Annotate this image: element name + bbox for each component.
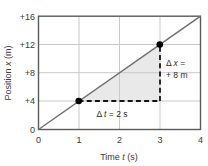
chart-svg: +16 +12 +8 +4 0 0 1 2 3 4 Time t (s) Pos… (0, 0, 208, 166)
y-tick-label: +4 (25, 96, 35, 106)
delta-x-annotation-line1: Δ x = (166, 58, 185, 68)
y-axis-title-post: (m) (3, 45, 13, 61)
delta-t-post: = 2 s (106, 109, 127, 119)
x-tick-label: 4 (198, 135, 203, 145)
x-tick-label: 3 (157, 135, 162, 145)
delta-t-annotation: Δ t = 2 s (97, 109, 128, 119)
position-time-graph: +16 +12 +8 +4 0 0 1 2 3 4 Time t (s) Pos… (0, 0, 208, 166)
x-axis-title: Time t (s) (100, 152, 138, 162)
y-axis-title-pre: Position (3, 66, 13, 101)
x-tick-label: 2 (117, 135, 122, 145)
y-tick-label: 0 (30, 125, 35, 135)
x-tick-label: 0 (36, 135, 41, 145)
delta-x-annotation-line2: + 8 m (166, 70, 188, 80)
y-tick-label: +8 (25, 68, 35, 78)
delta-x-pre: Δ (166, 58, 174, 68)
y-tick-label: +16 (20, 12, 35, 22)
delta-x-post: = (178, 58, 185, 68)
data-point-marker (157, 41, 164, 48)
y-axis-title: Position x (m) (3, 45, 13, 100)
data-point-marker (75, 98, 82, 105)
x-tick-label: 1 (76, 135, 81, 145)
x-axis-title-post: (s) (125, 152, 138, 162)
x-axis-title-pre: Time (100, 152, 122, 162)
delta-t-pre: Δ (97, 109, 105, 119)
y-tick-label: +12 (20, 40, 35, 50)
